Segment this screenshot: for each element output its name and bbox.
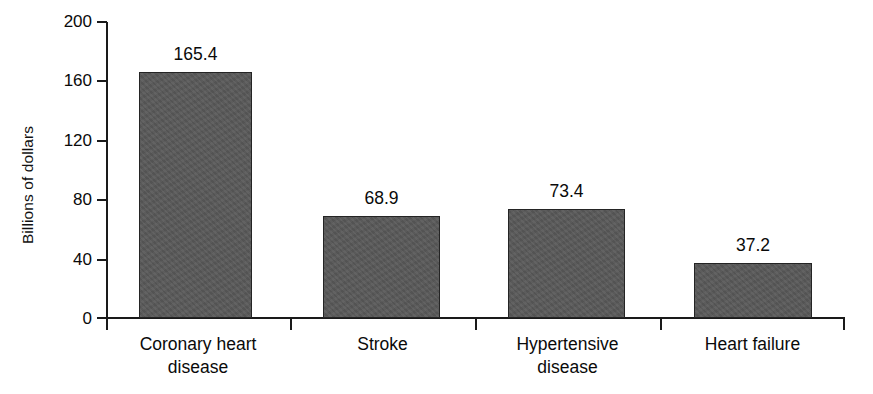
x-tick-mark-2 (475, 319, 477, 330)
y-tick-label-40: 40 (6, 251, 92, 268)
y-axis-title: Billions of dollars (15, 20, 41, 350)
y-axis-line (106, 22, 108, 319)
x-tick-mark-1 (290, 319, 292, 330)
x-category-label-line-1: Stroke (290, 333, 475, 356)
value-label-stroke: 68.9 (323, 188, 440, 208)
y-tick-label-0: 0 (6, 310, 92, 327)
x-category-label-heart-failure: Heart failure (660, 333, 845, 356)
x-tick-mark-4 (843, 319, 845, 330)
x-category-label-line-1: Hypertensive (475, 333, 660, 356)
bar-stroke[interactable] (323, 216, 440, 318)
x-category-label-line-1: Coronary heart (106, 333, 290, 356)
x-category-label-line-1: Heart failure (660, 333, 845, 356)
x-category-label-hypertensive-disease: Hypertensive disease (475, 333, 660, 379)
x-tick-mark-0 (106, 319, 108, 330)
bar-coronary-heart-disease[interactable] (139, 72, 252, 318)
value-label-hypertensive-disease: 73.4 (508, 181, 625, 201)
bar-heart-failure[interactable] (694, 263, 812, 318)
x-category-label-coronary-heart-disease: Coronary heart disease (106, 333, 290, 379)
value-label-heart-failure: 37.2 (694, 235, 812, 255)
x-category-label-line-2: disease (106, 356, 290, 379)
x-category-label-stroke: Stroke (290, 333, 475, 356)
y-tick-label-group-0: 0 (0, 310, 92, 327)
y-tick-label-group-160: 160 (0, 72, 92, 89)
y-tick-label-group-40: 40 (0, 251, 92, 268)
x-tick-mark-3 (660, 319, 662, 330)
y-tick-label-group-200: 200 (0, 13, 92, 30)
y-tick-label-group-120: 120 (0, 132, 92, 149)
bar-hypertensive-disease[interactable] (508, 209, 625, 318)
value-label-coronary-heart-disease: 165.4 (139, 44, 252, 64)
y-tick-label-group-80: 80 (0, 191, 92, 208)
y-tick-label-120: 120 (6, 132, 92, 149)
y-tick-label-200: 200 (6, 13, 92, 30)
x-category-label-line-2: disease (475, 356, 660, 379)
y-tick-label-160: 160 (6, 72, 92, 89)
y-tick-label-80: 80 (6, 191, 92, 208)
bar-chart: Billions of dollars 200 160 120 80 40 0 … (0, 0, 873, 394)
